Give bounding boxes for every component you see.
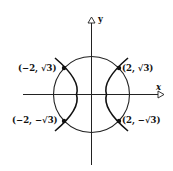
point-label: (2, −√3): [122, 116, 161, 125]
intersection-point: [62, 119, 66, 123]
diagram-canvas: [0, 0, 173, 171]
intersection-point: [117, 66, 121, 70]
x-axis-label: x: [156, 83, 161, 92]
intersection-point: [62, 66, 66, 70]
intersection-point: [117, 119, 121, 123]
point-label: (−2, √3): [18, 64, 57, 73]
x-axis-arrow-icon: [158, 91, 164, 98]
point-label: (−2, −√3): [12, 116, 58, 125]
y-axis-arrow-icon: [88, 17, 95, 23]
point-label: (2, √3): [122, 64, 153, 73]
y-axis-label: y: [98, 15, 103, 24]
